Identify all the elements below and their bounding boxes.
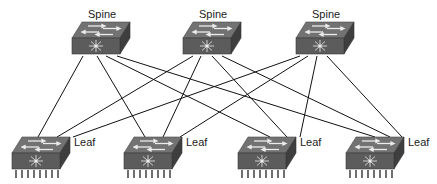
leaf-label: Leaf xyxy=(186,136,208,148)
switch-icon xyxy=(346,137,404,169)
port-pins-icon xyxy=(350,170,392,178)
link-spine-3-leaf-2 xyxy=(180,56,308,137)
switch-icon xyxy=(124,137,182,169)
spine-switch: Spine xyxy=(296,8,354,54)
spine-label: Spine xyxy=(199,8,227,20)
links-layer xyxy=(38,56,402,137)
link-spine-3-leaf-3 xyxy=(300,56,317,137)
link-spine-2-leaf-1 xyxy=(57,56,193,137)
link-spine-3-leaf-1 xyxy=(73,56,300,137)
link-spine-1-leaf-1 xyxy=(38,56,83,137)
switch-icon xyxy=(183,22,241,54)
spine-leaf-diagram: SpineSpineSpine LeafLeafLeafLeaf xyxy=(0,0,437,184)
switch-icon xyxy=(238,137,296,169)
leaf-label: Leaf xyxy=(300,136,322,148)
leaf-switch: Leaf xyxy=(124,136,208,178)
switch-icon xyxy=(12,137,70,169)
link-spine-2-leaf-2 xyxy=(163,56,201,137)
spine-switch: Spine xyxy=(183,8,241,54)
spine-switch: Spine xyxy=(72,8,130,54)
leaf-switch: Leaf xyxy=(346,136,430,178)
leaf-switch: Leaf xyxy=(238,136,322,178)
spine-label: Spine xyxy=(312,8,340,20)
switch-icon xyxy=(296,22,354,54)
link-spine-2-leaf-3 xyxy=(212,56,287,137)
port-pins-icon xyxy=(242,170,284,178)
link-spine-1-leaf-2 xyxy=(97,56,145,137)
spine-label: Spine xyxy=(88,8,116,20)
port-pins-icon xyxy=(16,170,58,178)
port-pins-icon xyxy=(128,170,170,178)
leaves-layer: LeafLeafLeafLeaf xyxy=(12,136,430,178)
leaf-label: Leaf xyxy=(408,136,430,148)
leaf-label: Leaf xyxy=(74,136,96,148)
switch-icon xyxy=(72,22,130,54)
spines-layer: SpineSpineSpine xyxy=(72,8,354,54)
leaf-switch: Leaf xyxy=(12,136,96,178)
